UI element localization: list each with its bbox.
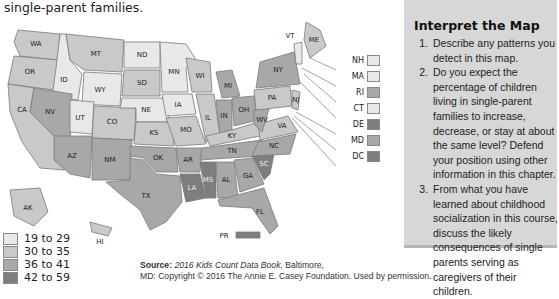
callout-label: DC	[352, 152, 364, 161]
legend-label: 42 to 59	[24, 271, 70, 284]
svg-text:MI: MI	[224, 82, 232, 90]
legend: 19 to 2930 to 3536 to 4142 to 59	[3, 232, 70, 284]
callout-swatch	[367, 135, 380, 146]
svg-text:MN: MN	[168, 68, 179, 76]
svg-text:NC: NC	[269, 142, 279, 150]
svg-text:MS: MS	[203, 176, 214, 184]
state-ut: UT	[70, 100, 94, 134]
legend-swatch	[3, 233, 18, 245]
svg-text:SD: SD	[137, 79, 147, 87]
callout-swatch	[367, 71, 380, 82]
svg-text:IN: IN	[220, 112, 227, 120]
state-nd: ND	[124, 42, 160, 68]
state-wi: WI	[186, 58, 212, 92]
legend-swatch	[3, 272, 18, 284]
legend-swatch	[3, 246, 18, 258]
svg-text:MT: MT	[91, 50, 102, 58]
callout-ma: MA	[330, 68, 380, 84]
svg-text:IA: IA	[175, 101, 182, 109]
svg-text:FL: FL	[256, 208, 264, 216]
svg-text:WI: WI	[196, 72, 205, 80]
state-wy: WY	[82, 72, 122, 106]
svg-text:ID: ID	[60, 76, 67, 84]
northeast-callouts: NHMARICTDEMDDC	[330, 52, 380, 164]
callout-de: DE	[330, 116, 380, 132]
svg-text:NE: NE	[141, 106, 151, 114]
source-book: 2016 Kids Count Data Book,	[174, 260, 282, 270]
svg-text:NY: NY	[273, 66, 283, 74]
callout-swatch	[367, 151, 380, 162]
callout-swatch	[367, 119, 380, 130]
svg-text:PA: PA	[268, 94, 277, 102]
svg-text:VT: VT	[285, 32, 295, 40]
svg-text:TN: TN	[226, 147, 237, 155]
svg-text:OH: OH	[239, 106, 250, 114]
svg-text:UT: UT	[75, 114, 85, 122]
svg-text:KY: KY	[228, 132, 237, 140]
callout-label: CT	[354, 104, 364, 113]
svg-text:CO: CO	[107, 118, 118, 126]
callout-swatch	[367, 103, 380, 114]
callout-label: MA	[352, 72, 364, 81]
svg-text:PR: PR	[219, 232, 228, 240]
svg-text:AZ: AZ	[67, 152, 77, 160]
svg-text:AR: AR	[183, 156, 193, 164]
legend-swatch	[3, 259, 18, 271]
state-co: CO	[92, 106, 136, 140]
question-2: Do you expect the percentage of children…	[431, 65, 559, 182]
svg-text:LA: LA	[188, 184, 197, 192]
legend-item: 19 to 29	[3, 232, 70, 245]
state-me: ME	[304, 22, 326, 58]
callout-label: MD	[351, 136, 364, 145]
state-al: AL	[216, 162, 238, 198]
callout-label: NH	[352, 56, 364, 65]
legend-item: 30 to 35	[3, 245, 70, 258]
interpret-panel: Interpret the Map Describe any patterns …	[404, 0, 557, 248]
svg-text:GA: GA	[243, 172, 253, 180]
state-pa: PA	[254, 86, 292, 110]
state-nj: NJ	[292, 90, 300, 110]
svg-text:OR: OR	[25, 68, 36, 76]
svg-text:WV: WV	[256, 116, 268, 124]
source-note: Source: 2016 Kids Count Data Book, Balti…	[140, 260, 431, 282]
state-ny: NY	[256, 52, 300, 88]
state-nm: NM	[92, 138, 132, 180]
callout-swatch	[367, 55, 380, 66]
question-1: Describe any patterns you detect in this…	[431, 36, 559, 65]
svg-text:WY: WY	[94, 86, 106, 94]
source-line1: Baltimore,	[283, 260, 324, 270]
callout-swatch	[367, 87, 380, 98]
state-ks: KS	[134, 122, 174, 146]
legend-label: 19 to 29	[24, 232, 70, 245]
svg-text:VA: VA	[277, 122, 286, 130]
callout-ct: CT	[330, 100, 380, 116]
svg-text:TX: TX	[140, 192, 150, 200]
state-sd: SD	[122, 70, 160, 96]
callout-dc: DC	[330, 148, 380, 164]
svg-text:MO: MO	[180, 126, 192, 134]
question-3: From what you have learned about childho…	[431, 182, 559, 299]
svg-text:NJ: NJ	[292, 96, 299, 104]
panel-title: Interpret the Map	[414, 18, 540, 33]
svg-text:IL: IL	[205, 114, 211, 122]
svg-text:HI: HI	[96, 238, 103, 246]
svg-text:OK: OK	[153, 154, 164, 162]
source-line2: MD: Copyright © 2016 The Annie E. Casey …	[140, 271, 431, 281]
svg-text:ND: ND	[137, 51, 148, 59]
state-wa: WA	[14, 30, 60, 60]
state-ar: AR	[176, 148, 202, 172]
state-ia: IA	[162, 94, 196, 116]
legend-item: 42 to 59	[3, 271, 70, 284]
source-label: Source:	[140, 260, 172, 270]
svg-text:NM: NM	[104, 156, 115, 164]
state-hi: HI	[90, 222, 112, 246]
callout-label: RI	[356, 88, 364, 97]
svg-text:AK: AK	[23, 204, 33, 212]
svg-text:SC: SC	[259, 160, 268, 168]
callout-ri: RI	[330, 84, 380, 100]
svg-text:CA: CA	[17, 106, 27, 114]
state-pr: PR	[219, 232, 260, 240]
svg-text:ME: ME	[309, 36, 319, 44]
legend-label: 36 to 41	[24, 258, 70, 271]
svg-text:AL: AL	[222, 176, 231, 184]
